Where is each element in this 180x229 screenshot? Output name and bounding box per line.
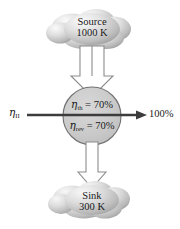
eta-rev-value: = 70% [87,120,115,131]
reversible-efficiency-label: ηrev = 70% [52,120,132,131]
sink-name: Sink [82,190,101,201]
output-percentage-label: 100% [149,108,174,119]
eta-th-subscript: th [77,104,82,111]
sink-label: Sink 300 K [52,190,132,212]
source-label: Source 1000 K [52,16,132,38]
sink-temperature: 300 K [52,201,132,212]
source-name: Source [77,16,106,27]
eta-rev-symbol: η [69,119,75,131]
source-temperature: 1000 K [52,27,132,38]
eta-th-value: = 70% [85,99,113,110]
thermal-efficiency-label: ηth = 70% [52,99,132,110]
eta-rev-subscript: rev [76,125,84,132]
heat-engine-diagram: Source 1000 K ηth = 70% ηrev = 70% ηII 1… [0,0,180,229]
second-law-efficiency-label: ηII [9,107,20,118]
heat-rejected-arrow [78,142,106,188]
eta-II-subscript: II [15,112,19,119]
